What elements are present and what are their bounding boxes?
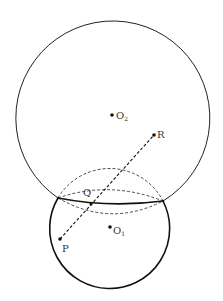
point-o2 — [110, 113, 114, 117]
intersection-ellipse-back — [58, 190, 163, 201]
two-circles-diagram: O2 O1 R P Q — [0, 0, 223, 301]
point-r — [152, 133, 156, 137]
label-q: Q — [83, 187, 91, 198]
intersection-right — [162, 200, 164, 202]
label-o1: O1 — [113, 225, 125, 237]
label-r: R — [157, 129, 165, 140]
label-p: P — [62, 243, 69, 254]
circle-o2 — [16, 21, 210, 201]
point-p — [58, 237, 62, 241]
point-q — [90, 203, 93, 206]
circle-o1-hidden-arc — [58, 168, 163, 201]
label-o2: O2 — [116, 110, 128, 122]
common-chord-front — [58, 198, 163, 204]
segment-pr — [60, 135, 154, 239]
point-o1 — [108, 225, 112, 229]
intersection-left — [57, 197, 59, 199]
